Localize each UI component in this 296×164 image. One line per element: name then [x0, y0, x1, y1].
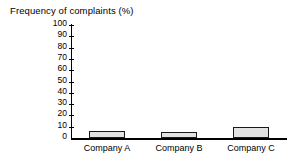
y-axis-tick-label: 80 [58, 42, 67, 51]
x-axis-category-label: Company C [215, 143, 287, 154]
y-axis-tick-label: 60 [58, 64, 67, 73]
bar [233, 127, 269, 138]
y-axis-tick-label: 30 [58, 98, 67, 107]
bar [161, 132, 197, 138]
y-axis-tick-label: 50 [58, 76, 67, 85]
y-axis-tick-label: 10 [58, 121, 67, 130]
y-axis-tick-label: 0 [62, 132, 67, 141]
y-axis-tick-label: 40 [58, 87, 67, 96]
x-axis-line [71, 138, 287, 140]
x-axis-category-label: Company A [71, 143, 143, 154]
y-axis-tick-label: 90 [58, 30, 67, 39]
bar-chart-figure: Frequency of complaints (%) 100908070605… [0, 0, 296, 164]
y-axis-tick-label: 20 [58, 109, 67, 118]
plot-area [71, 25, 287, 138]
chart-title: Frequency of complaints (%) [10, 5, 134, 17]
x-axis-category-label: Company B [143, 143, 215, 154]
bar [89, 131, 125, 138]
y-axis-tick-label: 100 [53, 19, 67, 28]
y-axis-tick-label: 70 [58, 53, 67, 62]
